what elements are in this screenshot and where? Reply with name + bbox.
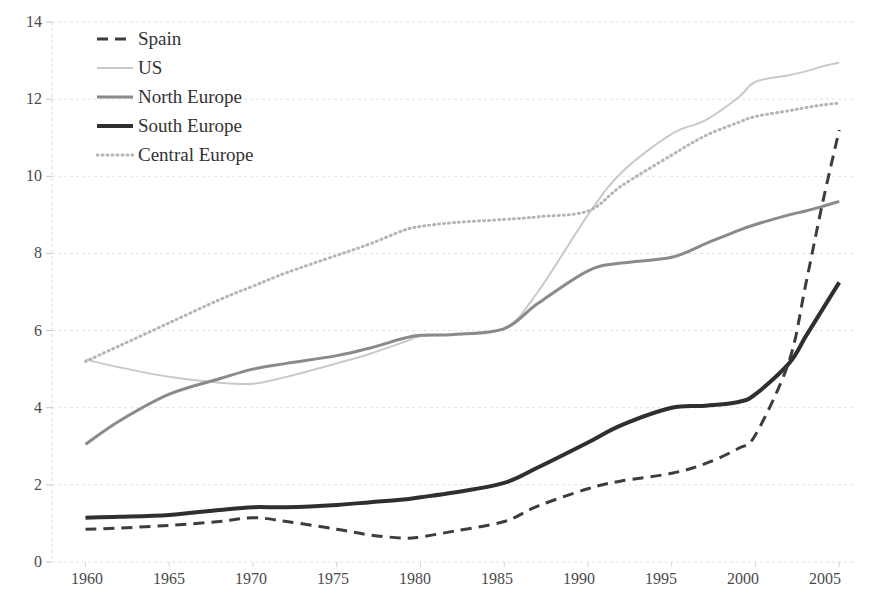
x-tick-label: 1980: [385, 570, 445, 588]
x-tick-label: 1990: [549, 570, 609, 588]
line-chart: 14 12 10 8 6 4 2 0 1960 1965 1970 1975 1…: [0, 0, 874, 594]
series-line-south-europe: [86, 282, 840, 517]
y-tick-label: 8: [8, 244, 42, 262]
legend-swatch-south-europe: [96, 119, 134, 133]
y-tick-label: 6: [8, 322, 42, 340]
legend-label: South Europe: [138, 116, 242, 135]
y-tick-label: 4: [8, 399, 42, 417]
y-tick-label: 14: [8, 13, 42, 31]
x-tick-label: 2005: [795, 570, 855, 588]
y-tick-label: 10: [8, 167, 42, 185]
x-tick-label: 2000: [713, 570, 773, 588]
legend-swatch-spain: [96, 32, 134, 46]
legend-swatch-north-europe: [96, 90, 134, 104]
chart-legend: Spain US North Europe South Europe Centr…: [96, 24, 326, 169]
legend-swatch-us: [96, 61, 134, 75]
legend-swatch-central-europe: [96, 148, 134, 162]
legend-label: North Europe: [138, 87, 242, 106]
x-tick-label: 1985: [467, 570, 527, 588]
x-tick-label: 1965: [139, 570, 199, 588]
y-tick-label: 2: [8, 476, 42, 494]
legend-label: Central Europe: [138, 145, 254, 164]
x-tick-label: 1970: [221, 570, 281, 588]
legend-item-south-europe: South Europe: [96, 111, 326, 140]
legend-item-central-europe: Central Europe: [96, 140, 326, 169]
legend-label: Spain: [138, 29, 181, 48]
x-tick-label: 1995: [631, 570, 691, 588]
x-tick-label: 1960: [57, 570, 117, 588]
y-tick-label: 0: [8, 553, 42, 571]
legend-item-us: US: [96, 53, 326, 82]
legend-item-north-europe: North Europe: [96, 82, 326, 111]
legend-item-spain: Spain: [96, 24, 326, 53]
x-tick-label: 1975: [303, 570, 363, 588]
y-tick-label: 12: [8, 90, 42, 108]
legend-label: US: [138, 58, 162, 77]
